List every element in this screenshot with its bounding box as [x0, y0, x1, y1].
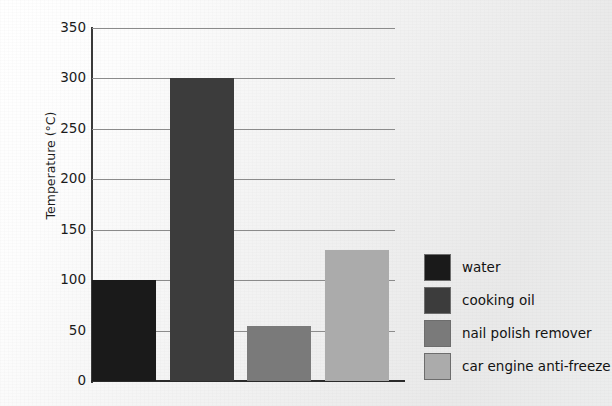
legend-swatch-car-engine-anti-freeze — [424, 353, 451, 380]
legend-label-nail-polish-remover: nail polish remover — [462, 326, 592, 341]
y-tick-label-350: 350 — [40, 21, 86, 35]
legend-label-water: water — [462, 260, 500, 275]
y-tick-label-100: 100 — [40, 273, 86, 287]
y-tick-label-300: 300 — [40, 71, 86, 85]
y-tick-label-250: 250 — [40, 122, 86, 136]
gridline-300 — [92, 78, 395, 79]
y-tick-label-150: 150 — [40, 223, 86, 237]
legend-item-water: water — [424, 252, 500, 282]
plot-area — [92, 28, 395, 381]
legend-swatch-water — [424, 254, 451, 281]
y-tick-label-50: 50 — [40, 324, 86, 338]
legend-item-nail-polish-remover: nail polish remover — [424, 318, 592, 348]
y-axis-tick-labels: 050100150200250300350 — [34, 0, 86, 406]
legend-item-car-engine-anti-freeze: car engine anti-freeze — [424, 351, 611, 381]
legend-item-cooking-oil: cooking oil — [424, 285, 535, 315]
gridline-200 — [92, 179, 395, 180]
bar-cooking-oil — [170, 78, 234, 381]
bar-nail-polish-remover — [247, 326, 311, 381]
legend-label-car-engine-anti-freeze: car engine anti-freeze — [462, 359, 611, 374]
legend-label-cooking-oil: cooking oil — [462, 293, 535, 308]
y-tick-label-0: 0 — [40, 374, 86, 388]
gridline-250 — [92, 129, 395, 130]
legend-swatch-nail-polish-remover — [424, 320, 451, 347]
gridline-350 — [92, 28, 395, 29]
legend-swatch-cooking-oil — [424, 287, 451, 314]
y-tick-label-200: 200 — [40, 172, 86, 186]
bar-car-engine-anti-freeze — [325, 250, 389, 381]
chart-page: Temperature (°C) 050100150200250300350 w… — [0, 0, 612, 406]
bar-water — [92, 280, 156, 381]
gridline-150 — [92, 230, 395, 231]
